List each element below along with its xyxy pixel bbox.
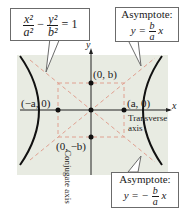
conjugate-axis-label: Conjugate axis (63, 150, 73, 204)
vertex-left-point (56, 108, 61, 113)
vertex-left-label: (−a, 0) (21, 97, 50, 109)
covertex-bottom-point (89, 135, 94, 140)
covertex-top-label: (0, b) (93, 68, 117, 80)
asymptote-bottom-callout: Asymptote: y = − ba x (111, 172, 179, 208)
y-axis-label: y (86, 39, 90, 50)
equation-callout: x²a² − y²b² = 1 (10, 8, 90, 41)
transverse-axis-label: Transverse axis (128, 113, 167, 133)
asymptote-top-callout: Asymptote: y = ba x (115, 7, 179, 42)
vertex-right-point (122, 108, 127, 113)
covertex-top-point (89, 81, 94, 86)
vertex-right-label: (a, 0) (127, 97, 150, 109)
x-axis-label: x (172, 100, 176, 111)
center-point (89, 108, 94, 113)
